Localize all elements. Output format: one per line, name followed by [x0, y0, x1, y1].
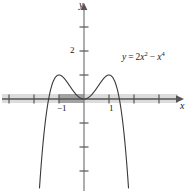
equation-equals-sign: = — [128, 52, 133, 62]
x-tick-label-negative-1: −1 — [57, 104, 67, 113]
equation-minus-sign: − — [150, 52, 155, 62]
x-tick-label-1: 1 — [109, 104, 114, 113]
graph-figure: y x 2 −1 1 y=2x2−x4 — [0, 0, 190, 191]
x-axis-label: x — [180, 101, 184, 111]
equation-term1-exponent: 2 — [145, 50, 148, 57]
plot-canvas — [0, 0, 190, 191]
curve-equation-label: y=2x2−x4 — [122, 53, 165, 63]
y-axis-label: y — [79, 0, 83, 10]
y-tick-label-2: 2 — [70, 46, 75, 55]
equation-term2-exponent: 4 — [161, 50, 164, 57]
equation-lhs: y — [122, 52, 126, 62]
